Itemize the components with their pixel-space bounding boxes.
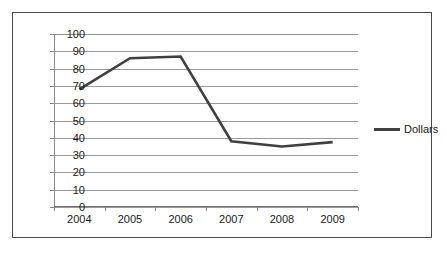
legend-label-dollars: Dollars — [404, 124, 438, 135]
y-tick-mark-30 — [50, 155, 54, 156]
chart-container: 0102030405060708090100 20042005200620072… — [12, 12, 432, 238]
x-tick-mark-6 — [358, 207, 359, 211]
x-tick-mark-3 — [206, 207, 207, 211]
y-tick-label-20: 20 — [51, 167, 85, 178]
y-tick-mark-100 — [50, 34, 54, 35]
x-tick-label-2005: 2005 — [105, 213, 155, 225]
series-dollars-line — [54, 34, 358, 207]
y-tick-label-70: 70 — [51, 81, 85, 92]
x-tick-label-2008: 2008 — [257, 213, 307, 225]
y-tick-label-80: 80 — [51, 64, 85, 75]
x-tick-label-2009: 2009 — [308, 213, 358, 225]
y-tick-mark-60 — [50, 103, 54, 104]
y-tick-label-100: 100 — [51, 29, 85, 40]
y-tick-mark-90 — [50, 51, 54, 52]
x-tick-label-2004: 2004 — [54, 213, 104, 225]
x-tick-mark-0 — [54, 207, 55, 211]
y-tick-mark-80 — [50, 69, 54, 70]
y-tick-mark-20 — [50, 172, 54, 173]
x-tick-mark-5 — [307, 207, 308, 211]
y-tick-mark-40 — [50, 138, 54, 139]
y-tick-label-40: 40 — [51, 133, 85, 144]
y-tick-label-30: 30 — [51, 150, 85, 161]
plot-area — [54, 34, 358, 207]
legend: Dollars — [374, 124, 438, 135]
y-tick-mark-10 — [50, 190, 54, 191]
x-tick-mark-2 — [155, 207, 156, 211]
y-tick-mark-50 — [50, 121, 54, 122]
x-tick-mark-1 — [105, 207, 106, 211]
x-tick-label-2006: 2006 — [156, 213, 206, 225]
y-tick-label-50: 50 — [51, 116, 85, 127]
y-tick-label-10: 10 — [51, 185, 85, 196]
line-swatch-icon — [374, 128, 400, 131]
y-tick-label-60: 60 — [51, 98, 85, 109]
y-tick-mark-70 — [50, 86, 54, 87]
y-tick-label-0: 0 — [51, 202, 85, 213]
x-tick-label-2007: 2007 — [206, 213, 256, 225]
x-tick-mark-4 — [257, 207, 258, 211]
y-tick-label-90: 90 — [51, 46, 85, 57]
